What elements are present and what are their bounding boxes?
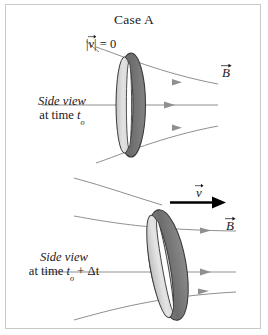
field-line-lower [96,126,218,163]
caption-line-2: at time to [16,108,108,125]
field-line-top-curve [74,178,162,205]
page-title: Case A [0,12,268,27]
caption-prefix: at time [39,108,77,122]
field-line-lower [74,292,236,320]
panel-caption-top: Side view at time to [16,94,108,125]
velocity-symbol-glyph: v [196,185,202,200]
velocity-arrow-head [212,197,226,209]
bottom-panel-ring [141,207,196,324]
caption-line-2: at time to + Δt [8,264,120,281]
field-line-arrowhead [200,269,211,276]
velocity-vector-symbol: v [196,185,202,201]
time-subscript: o [70,274,74,283]
b-vector-symbol: B [226,218,234,234]
velocity-label-bottom: v [196,185,202,201]
caption-line-1: Side view [8,250,120,264]
velocity-vector-symbol: v [89,36,95,51]
field-line-arrowhead [164,102,175,109]
b-symbol-glyph: B [226,218,234,233]
velocity-symbol-glyph: v [89,37,95,51]
b-vector-symbol: B [222,65,230,81]
ring-hole [126,62,131,148]
caption-suffix: + Δt [74,264,99,278]
field-line-arrowhead [172,79,182,85]
physics-figure: Case A |v| = 0 B Side view at time to v … [0,0,268,335]
velocity-equals-zero: | = 0 [94,37,116,51]
velocity-magnitude-label: |v| = 0 [86,36,116,51]
magnetic-field-label-bottom: B [226,218,234,234]
bottom-panel-field-lines [42,178,236,320]
b-symbol-glyph: B [222,65,230,80]
diagram-canvas [0,0,268,335]
time-subscript: o [81,118,85,127]
caption-prefix: at time [29,264,67,278]
field-line-arrowhead [200,227,211,233]
panel-caption-bottom: Side view at time to + Δt [8,250,120,281]
field-line-upper [96,47,218,84]
magnetic-field-label-top: B [222,65,230,81]
caption-line-1: Side view [16,94,108,108]
field-line-arrowhead [172,125,182,131]
top-panel-ring [116,53,146,157]
